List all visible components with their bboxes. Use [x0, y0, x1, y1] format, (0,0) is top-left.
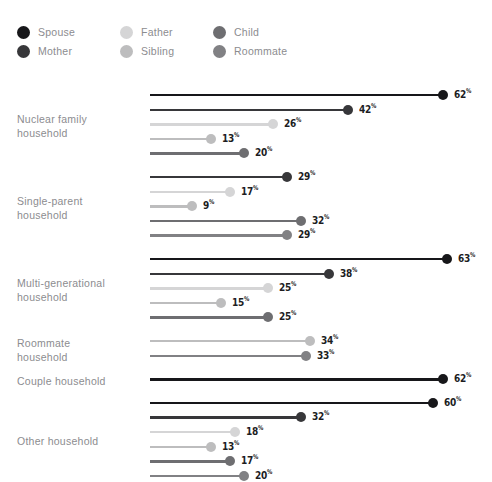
lollipop-knob [225, 456, 235, 466]
lollipop-bar[interactable]: 25% [150, 283, 492, 294]
lollipop-stem [150, 460, 230, 462]
lollipop-value-label: 9% [203, 198, 214, 212]
lollipop-value-number: 17 [241, 184, 253, 197]
group-label-line: Other household [17, 434, 142, 448]
group-label-line: Couple household [17, 374, 142, 388]
lollipop-bar[interactable]: 18% [150, 427, 492, 438]
group-label-line: Single-parent [17, 194, 142, 208]
percent-sign: % [296, 116, 301, 124]
percent-sign: % [352, 266, 357, 274]
lollipop-knob [428, 398, 438, 408]
lollipop-stem [150, 109, 348, 111]
lollipop-value-number: 20 [255, 146, 267, 159]
lollipop-knob [438, 374, 448, 384]
lollipop-stem [150, 302, 221, 304]
lollipop-stem [150, 234, 287, 236]
lollipop-bar[interactable]: 63% [150, 254, 492, 265]
lollipop-bar[interactable]: 62% [150, 374, 492, 385]
lollipop-bar[interactable]: 33% [150, 351, 492, 362]
percent-sign: % [244, 295, 249, 303]
lollipop-value-label: 13% [222, 439, 239, 453]
lollipop-knob [282, 172, 292, 182]
lollipop-bar[interactable]: 62% [150, 90, 492, 101]
lollipop-value-number: 34 [321, 334, 333, 347]
percent-sign: % [253, 453, 258, 461]
lollipop-knob [296, 216, 306, 226]
lollipop-value-number: 25 [279, 281, 291, 294]
percent-sign: % [466, 87, 471, 95]
lollipop-stem [150, 287, 268, 289]
lollipop-bar[interactable]: 13% [150, 134, 492, 145]
lollipop-knob [324, 269, 334, 279]
group-label-multi-generational-household: Multi-generationalhousehold [17, 276, 142, 304]
lollipop-value-label: 29% [298, 169, 315, 183]
lollipop-bar[interactable]: 38% [150, 269, 492, 280]
lollipop-bar[interactable]: 60% [150, 398, 492, 409]
lollipop-bar[interactable]: 26% [150, 119, 492, 130]
lollipop-bar[interactable]: 17% [150, 456, 492, 467]
lollipop-bar[interactable]: 17% [150, 187, 492, 198]
lollipop-stem [150, 431, 235, 433]
lollipop-value-label: 32% [312, 213, 329, 227]
lollipop-value-number: 29 [298, 228, 310, 241]
lollipop-knob [206, 442, 216, 452]
lollipop-stem [150, 138, 211, 140]
lollipop-bar[interactable]: 42% [150, 105, 492, 116]
lollipop-value-label: 20% [255, 468, 272, 482]
lollipop-value-label: 26% [284, 116, 301, 130]
lollipop-stem [150, 416, 301, 418]
lollipop-bar[interactable]: 32% [150, 216, 492, 227]
lollipop-value-label: 62% [454, 87, 471, 101]
lollipop-bar[interactable]: 29% [150, 172, 492, 183]
lollipop-knob [442, 254, 452, 264]
lollipop-stem [150, 378, 443, 380]
lollipop-value-label: 18% [246, 424, 263, 438]
lollipop-bar[interactable]: 20% [150, 148, 492, 159]
lollipop-value-label: 62% [454, 371, 471, 385]
lollipop-value-number: 15 [232, 295, 244, 308]
lollipop-value-label: 17% [241, 184, 258, 198]
lollipop-value-number: 32 [312, 410, 324, 423]
lollipop-value-label: 32% [312, 409, 329, 423]
percent-sign: % [329, 348, 334, 356]
lollipop-value-number: 25 [279, 310, 291, 323]
lollipop-knob [216, 298, 226, 308]
percent-sign: % [310, 169, 315, 177]
percent-sign: % [258, 424, 263, 432]
lollipop-value-label: 20% [255, 145, 272, 159]
lollipop-stem [150, 123, 273, 125]
lollipop-value-label: 17% [241, 453, 258, 467]
lollipop-stem [150, 340, 310, 342]
lollipop-bar[interactable]: 25% [150, 312, 492, 323]
lollipop-bar[interactable]: 29% [150, 230, 492, 241]
percent-sign: % [333, 333, 338, 341]
group-label-line: household [17, 208, 142, 222]
percent-sign: % [291, 280, 296, 288]
percent-sign: % [253, 184, 258, 192]
lollipop-value-label: 25% [279, 309, 296, 323]
lollipop-stem [150, 316, 268, 318]
lollipop-value-number: 13 [222, 439, 234, 452]
percent-sign: % [324, 409, 329, 417]
lollipop-bar[interactable]: 13% [150, 442, 492, 453]
lollipop-bar[interactable]: 15% [150, 298, 492, 309]
group-label-line: Roommate [17, 336, 142, 350]
lollipop-value-number: 62 [454, 372, 466, 385]
group-label-line: Nuclear family [17, 112, 142, 126]
lollipop-bar[interactable]: 9% [150, 201, 492, 212]
lollipop-bar[interactable]: 34% [150, 336, 492, 347]
lollipop-value-number: 63 [458, 252, 470, 265]
lollipop-value-label: 34% [321, 333, 338, 347]
group-label-single-parent-household: Single-parenthousehold [17, 194, 142, 222]
lollipop-stem [150, 176, 287, 178]
lollipop-value-number: 62 [454, 88, 466, 101]
lollipop-value-label: 33% [317, 348, 334, 362]
lollipop-value-label: 42% [359, 102, 376, 116]
lollipop-stem [150, 191, 230, 193]
lollipop-bar[interactable]: 32% [150, 412, 492, 423]
percent-sign: % [324, 213, 329, 221]
lollipop-value-number: 42 [359, 102, 371, 115]
lollipop-knob [343, 105, 353, 115]
lollipop-bar[interactable]: 20% [150, 471, 492, 482]
